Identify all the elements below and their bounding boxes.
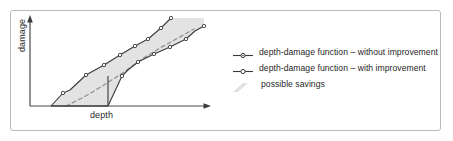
chart-legend: depth-damage function – without improvem… [232,47,440,95]
x-axis-arrow-icon [204,103,212,109]
plot-svg [18,14,228,126]
legend-item-possible-savings[interactable]: possible savings [232,79,440,90]
legend-label-without-improvement: depth-damage function – without improvem… [259,47,438,58]
figure-canvas: damage depth depth-damage function – wit… [0,0,453,141]
x-axis-label: depth [90,110,113,120]
legend-item-with-improvement[interactable]: depth-damage function – with improvement [232,63,440,74]
line-with-dot-marker-icon [232,47,254,58]
legend-item-without-improvement[interactable]: depth-damage function – without improvem… [232,47,440,58]
legend-label-with-improvement: depth-damage function – with improvement [259,63,426,74]
y-axis-label: damage [17,19,27,52]
possible-savings-band [51,18,204,106]
depth-damage-plot: damage depth [18,14,228,126]
line-with-open-circle-marker-icon [232,63,254,74]
shaded-area-swatch-icon [232,79,254,90]
y-axis-arrow-icon [27,15,33,23]
legend-label-possible-savings: possible savings [261,79,325,90]
